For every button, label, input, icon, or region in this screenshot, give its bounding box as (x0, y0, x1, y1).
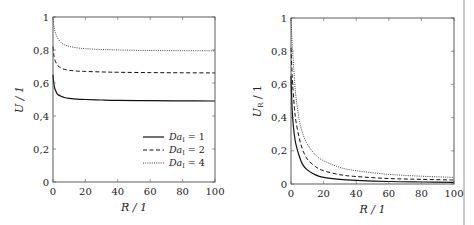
y-tick-label: 0,2 (271, 145, 287, 156)
right-plot-frame (291, 18, 454, 184)
x-tick-label: 20 (317, 188, 330, 199)
right-curves (291, 18, 454, 182)
left-y-axis-label: U / 1 (13, 86, 26, 113)
right-chart: 02040608010000,20,40,60,81 R / 1 UR / 1 (251, 13, 464, 217)
y-tick-label: 0,6 (33, 78, 49, 89)
x-tick-label: 0 (50, 186, 56, 197)
y-tick-label: 0 (43, 177, 49, 188)
y-tick-label: 1 (43, 12, 49, 23)
figure: 02040608010000,20,40,60,81 R / 1 U / 1 D… (0, 0, 474, 225)
left-ticks: 02040608010000,20,40,60,81 (33, 12, 224, 198)
x-tick-label: 0 (288, 188, 294, 199)
right-ticks: 02040608010000,20,40,60,81 (271, 13, 463, 200)
x-tick-label: 80 (176, 186, 189, 197)
legend-entry: DaI= 2 (168, 144, 205, 157)
y-tick-label: 1 (281, 13, 287, 24)
y-tick-label: 0,8 (33, 45, 49, 56)
series-line-solid (53, 75, 215, 101)
x-tick-label: 100 (444, 188, 463, 199)
left-curves (53, 17, 215, 101)
x-tick-label: 60 (382, 188, 395, 199)
x-tick-label: 40 (111, 186, 124, 197)
x-tick-label: 40 (350, 188, 363, 199)
y-tick-label: 0,4 (33, 111, 49, 122)
y-tick-label: 0 (281, 179, 287, 190)
x-tick-label: 100 (205, 186, 224, 197)
series-line-dotted (53, 17, 215, 51)
x-tick-label: 60 (144, 186, 157, 197)
left-chart: 02040608010000,20,40,60,81 R / 1 U / 1 D… (13, 12, 225, 215)
y-tick-label: 0,6 (271, 79, 287, 90)
right-y-axis-label: UR / 1 (251, 85, 265, 117)
x-tick-label: 80 (415, 188, 428, 199)
series-line-dashed (291, 48, 454, 180)
legend: DaI= 1DaI= 2DaI= 4 (143, 131, 205, 170)
series-line-dotted (291, 18, 454, 177)
y-tick-label: 0,4 (271, 112, 287, 123)
x-tick-label: 20 (79, 186, 92, 197)
left-x-axis-label: R / 1 (120, 201, 147, 214)
y-tick-label: 0,8 (271, 46, 287, 57)
y-tick-label: 0,2 (33, 144, 49, 155)
legend-entry: DaI= 4 (168, 157, 205, 170)
right-x-axis-label: R / 1 (359, 203, 386, 216)
right-y-label-rest: / 1 (251, 85, 264, 103)
legend-entry: DaI= 1 (168, 131, 205, 144)
